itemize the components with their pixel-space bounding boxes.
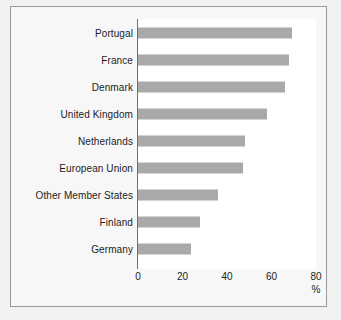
bar-row: Finland bbox=[11, 208, 328, 235]
bar-netherlands bbox=[138, 135, 245, 146]
category-label-european-union: European Union bbox=[59, 162, 133, 173]
category-label-portugal: Portugal bbox=[95, 27, 133, 38]
bar-united-kingdom bbox=[138, 108, 267, 119]
bar-row: Portugal bbox=[11, 19, 328, 46]
bar-row: Denmark bbox=[11, 73, 328, 100]
x-tick-80: 80 bbox=[310, 271, 321, 282]
bar-european-union bbox=[138, 162, 243, 173]
bar-france bbox=[138, 54, 289, 65]
x-axis-unit-label: % bbox=[312, 284, 321, 295]
category-label-other-member-states: Other Member States bbox=[36, 189, 134, 200]
x-tick-60: 60 bbox=[266, 271, 277, 282]
x-tick-40: 40 bbox=[221, 271, 232, 282]
category-label-france: France bbox=[101, 54, 133, 65]
category-label-finland: Finland bbox=[100, 216, 134, 227]
bar-denmark bbox=[138, 81, 285, 92]
bar-row: Other Member States bbox=[11, 181, 328, 208]
x-axis-tick-labels: 020406080 bbox=[11, 271, 328, 287]
bar-portugal bbox=[138, 27, 292, 38]
category-label-germany: Germany bbox=[91, 243, 133, 254]
x-tick-0: 0 bbox=[135, 271, 141, 282]
bar-finland bbox=[138, 216, 200, 227]
x-tick-20: 20 bbox=[177, 271, 188, 282]
bar-row: Germany bbox=[11, 235, 328, 262]
bar-row: United Kingdom bbox=[11, 100, 328, 127]
bar-row: European Union bbox=[11, 154, 328, 181]
bar-other-member-states bbox=[138, 189, 218, 200]
category-label-denmark: Denmark bbox=[92, 81, 133, 92]
bar-chart: PortugalFranceDenmarkUnited KingdomNethe… bbox=[11, 7, 328, 308]
chart-figure-frame: PortugalFranceDenmarkUnited KingdomNethe… bbox=[10, 6, 327, 307]
bar-row: Netherlands bbox=[11, 127, 328, 154]
category-label-united-kingdom: United Kingdom bbox=[60, 108, 133, 119]
bar-row: France bbox=[11, 46, 328, 73]
bar-germany bbox=[138, 243, 191, 254]
category-label-netherlands: Netherlands bbox=[78, 135, 133, 146]
